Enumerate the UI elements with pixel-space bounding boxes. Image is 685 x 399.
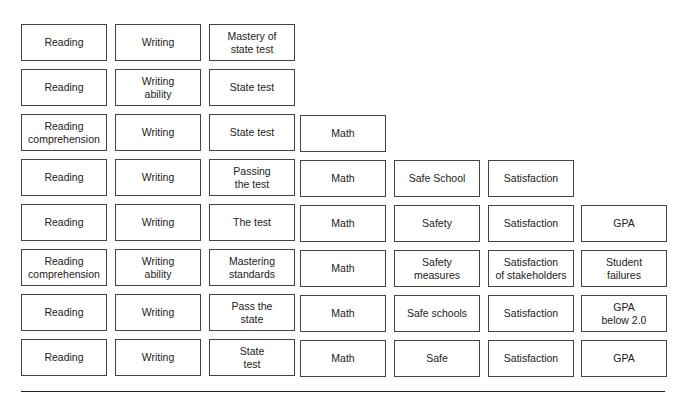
- category-box: Safe schools: [394, 295, 480, 332]
- bottom-rule: [21, 391, 665, 392]
- category-box: Reading: [21, 294, 107, 331]
- category-box: Satisfaction: [488, 160, 574, 197]
- category-box: Writing: [115, 204, 201, 241]
- category-box: Satisfaction: [488, 205, 574, 242]
- category-box: Writing: [115, 24, 201, 61]
- category-box: Reading comprehension: [21, 114, 107, 151]
- category-box: Math: [300, 205, 386, 242]
- category-box: Reading: [21, 339, 107, 376]
- category-box: Writing: [115, 294, 201, 331]
- category-box: Writing: [115, 339, 201, 376]
- category-box: Writing ability: [115, 249, 201, 286]
- category-box: State test: [209, 114, 295, 151]
- category-box: Reading: [21, 69, 107, 106]
- category-box: GPA: [581, 205, 667, 242]
- category-box: Math: [300, 250, 386, 287]
- category-box: Safe: [394, 340, 480, 377]
- category-box: State test: [209, 339, 295, 376]
- category-box: Satisfaction: [488, 340, 574, 377]
- category-box: Safe School: [394, 160, 480, 197]
- category-box: The test: [209, 204, 295, 241]
- category-box: Satisfaction: [488, 295, 574, 332]
- category-grid: ReadingWritingMastery of state testReadi…: [0, 0, 685, 399]
- category-box: Pass the state: [209, 294, 295, 331]
- category-box: GPA below 2.0: [581, 295, 667, 332]
- category-box: GPA: [581, 340, 667, 377]
- category-box: Reading: [21, 159, 107, 196]
- category-box: Writing: [115, 114, 201, 151]
- category-box: Safety measures: [394, 250, 480, 287]
- category-box: Writing ability: [115, 69, 201, 106]
- category-box: Math: [300, 115, 386, 152]
- category-box: Passing the test: [209, 159, 295, 196]
- category-box: State test: [209, 69, 295, 106]
- category-box: Reading: [21, 204, 107, 241]
- category-box: Student failures: [581, 250, 667, 287]
- category-box: Writing: [115, 159, 201, 196]
- category-box: Mastering standards: [209, 249, 295, 286]
- category-box: Reading: [21, 24, 107, 61]
- category-box: Safety: [394, 205, 480, 242]
- category-box: Math: [300, 160, 386, 197]
- category-box: Satisfaction of stakeholders: [488, 250, 574, 287]
- category-box: Math: [300, 340, 386, 377]
- category-box: Reading comprehension: [21, 249, 107, 286]
- category-box: Mastery of state test: [209, 24, 295, 61]
- category-box: Math: [300, 295, 386, 332]
